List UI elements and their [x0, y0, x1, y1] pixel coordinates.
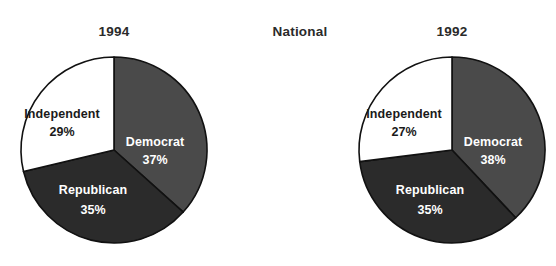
pie-chart-left: Independent 29% Democrat 37% Republican …	[21, 57, 207, 243]
pie-label-republican-left: Republican	[59, 183, 127, 197]
pie-value-democrat-right: 38%	[480, 153, 505, 167]
pie-value-independent-left: 29%	[49, 125, 74, 139]
pie-value-republican-right: 35%	[417, 203, 442, 217]
pie-chart-figure: 1994 National 1992 Independent 29% Democ…	[0, 0, 556, 266]
pie-chart-right: Independent 27% Democrat 38% Republican …	[359, 57, 545, 243]
pie-charts-canvas: Independent 29% Democrat 37% Republican …	[0, 0, 556, 266]
pie-label-independent-left: Independent	[24, 107, 100, 121]
pie-value-republican-left: 35%	[80, 203, 105, 217]
pie-value-independent-right: 27%	[391, 125, 416, 139]
pie-label-republican-right: Republican	[396, 183, 464, 197]
pie-label-democrat-right: Democrat	[464, 135, 523, 149]
pie-value-democrat-left: 37%	[142, 153, 167, 167]
pie-label-democrat-left: Democrat	[126, 135, 185, 149]
pie-label-independent-right: Independent	[366, 107, 442, 121]
